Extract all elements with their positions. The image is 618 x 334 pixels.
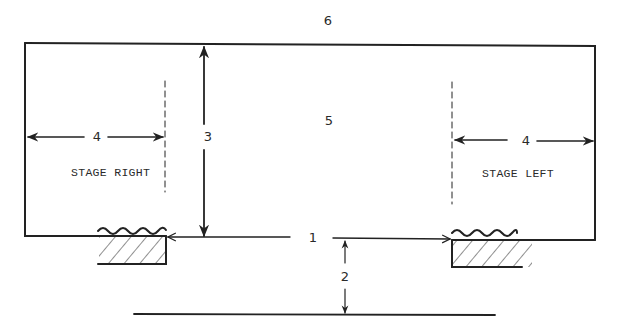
label-stage-right: STAGE RIGHT (71, 166, 150, 179)
label-stage-area: 5 (325, 113, 333, 128)
label-depth: 3 (204, 129, 212, 144)
label-proscenium-width: 1 (309, 230, 317, 245)
label-offstage-back: 6 (324, 13, 332, 28)
label-wing-width-right: 4 (522, 133, 530, 148)
apron-front-edge (134, 314, 495, 315)
label-wing-width-left: 4 (93, 129, 101, 144)
label-stage-left: STAGE LEFT (482, 167, 554, 180)
stage-plan-diagram: 6 5 3 4 4 STAGE RIGHT STAGE LEFT 1 (0, 0, 618, 334)
stage-outline (25, 43, 595, 240)
stage-left-proscenium-curtain (452, 230, 532, 267)
stage-right-proscenium-curtain (98, 228, 166, 264)
label-apron-depth: 2 (341, 269, 349, 284)
